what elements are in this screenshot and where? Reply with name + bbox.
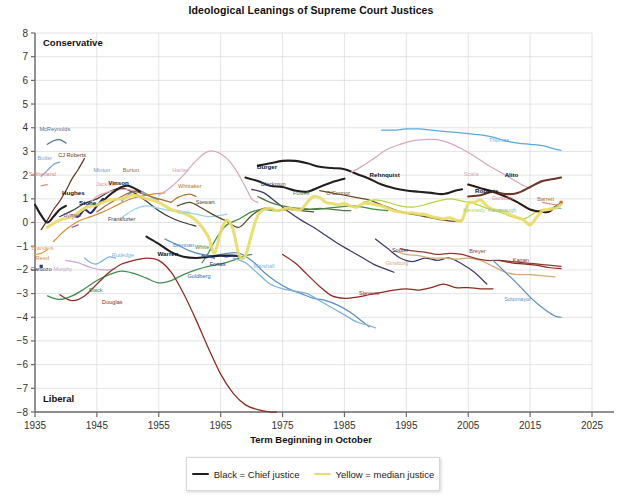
series-label-marshall: Marshall bbox=[253, 263, 274, 269]
zone-label-liberal: Liberal bbox=[43, 393, 74, 404]
chart-canvas: 876543210−1−2−3−4−5−6−7−8 19351945195519… bbox=[0, 0, 622, 504]
series-label-kagan: Kagan bbox=[513, 257, 529, 263]
grid-lines bbox=[35, 33, 592, 412]
svg-text:4: 4 bbox=[22, 122, 28, 133]
series-label-frankfurter: Frankfurter bbox=[108, 216, 135, 222]
series-label-ginsburg: Ginsburg bbox=[386, 260, 409, 266]
svg-text:−3: −3 bbox=[17, 288, 29, 299]
series-label-murphy: Murphy bbox=[54, 266, 73, 272]
svg-text:6: 6 bbox=[22, 75, 28, 86]
series-label-cj-roberts: CJ Roberts bbox=[58, 152, 86, 158]
svg-text:8: 8 bbox=[22, 28, 28, 39]
chart-legend: Black = Chief justice Yellow = median ju… bbox=[186, 457, 440, 491]
series-label-whittaker: Whittaker bbox=[178, 183, 202, 189]
series-label-stevens: Stevens bbox=[359, 290, 379, 296]
series-label-scalia: Scalia bbox=[464, 171, 480, 177]
svg-text:1935: 1935 bbox=[24, 420, 47, 431]
svg-text:2025: 2025 bbox=[581, 420, 604, 431]
chart-root: Ideological Leanings of Supreme Court Ju… bbox=[0, 0, 622, 504]
legend-label-median: Yellow = median justice bbox=[336, 469, 435, 480]
series-label-warren: Warren bbox=[158, 250, 179, 257]
svg-text:−2: −2 bbox=[17, 264, 29, 275]
svg-text:−6: −6 bbox=[17, 359, 29, 370]
series-label-rutledge: Rutledge bbox=[112, 252, 134, 258]
svg-text:7: 7 bbox=[22, 51, 28, 62]
legend-item-chief: Black = Chief justice bbox=[192, 469, 300, 480]
svg-text:−4: −4 bbox=[17, 312, 29, 323]
svg-text:1975: 1975 bbox=[271, 420, 294, 431]
series-label-minton: Minton bbox=[93, 167, 110, 173]
series-label-harlan: Harlan bbox=[172, 167, 188, 173]
svg-text:1995: 1995 bbox=[395, 420, 418, 431]
series-label-gorsuch: Gorsuch bbox=[492, 195, 513, 201]
svg-text:1985: 1985 bbox=[333, 420, 356, 431]
svg-text:2: 2 bbox=[22, 170, 28, 181]
svg-text:2015: 2015 bbox=[519, 420, 542, 431]
series-label-kennedy: Kennedy bbox=[463, 207, 485, 213]
svg-text:0: 0 bbox=[22, 217, 28, 228]
series-label-roberts: Roberts bbox=[475, 187, 499, 194]
series-label-stewart: Stewart bbox=[196, 199, 215, 205]
svg-text:−5: −5 bbox=[17, 335, 29, 346]
series-label-sutherland: Sutherland bbox=[29, 171, 56, 177]
svg-text:−7: −7 bbox=[17, 383, 29, 394]
y-axis-ticks: 876543210−1−2−3−4−5−6−7−8 bbox=[17, 28, 35, 418]
svg-text:1955: 1955 bbox=[148, 420, 171, 431]
series-label-brandeis: Brandeis bbox=[31, 245, 53, 251]
svg-text:1945: 1945 bbox=[86, 420, 109, 431]
series-label-black: Black bbox=[89, 287, 103, 293]
svg-text:2005: 2005 bbox=[457, 420, 480, 431]
series-label-sotomayor: Sotomayor bbox=[504, 296, 531, 302]
series-label-butler: Butler bbox=[38, 155, 53, 161]
series-label-douglas: Douglas bbox=[102, 299, 123, 305]
series-labels: McReynoldsButlerSutherlandCJ RobertsHugh… bbox=[29, 126, 555, 305]
series-label-byrnes: Byrnes bbox=[63, 212, 81, 218]
series-label-breyer: Breyer bbox=[469, 248, 486, 254]
series-label-rehnquist: Rehnquist bbox=[370, 171, 400, 178]
series-label-barrett: Barrett bbox=[537, 196, 554, 202]
series-label-alito: Alito bbox=[505, 171, 519, 178]
x-axis-ticks: 1935194519551965197519851995200520152025 bbox=[24, 412, 604, 431]
series-label-kavanaugh: Kavanaugh bbox=[488, 207, 516, 213]
series-label-burton: Burton bbox=[123, 167, 139, 173]
legend-swatch-median bbox=[314, 473, 331, 476]
svg-text:−1: −1 bbox=[17, 241, 29, 252]
zone-labels: ConservativeLiberal bbox=[43, 37, 103, 404]
svg-text:1965: 1965 bbox=[210, 420, 233, 431]
series-label-powell: Powell bbox=[293, 190, 309, 196]
series-label-cardozo: Cardozo bbox=[31, 266, 52, 272]
svg-text:1: 1 bbox=[22, 193, 28, 204]
svg-text:3: 3 bbox=[22, 146, 28, 157]
legend-swatch-chief bbox=[192, 473, 209, 476]
series-label-brennan: Brennan bbox=[173, 242, 194, 248]
series-label-souter: Souter bbox=[392, 247, 409, 253]
x-axis-title: Term Beginning in October bbox=[0, 434, 622, 445]
series-label-clark: Clark bbox=[177, 209, 190, 215]
legend-label-chief: Black = Chief justice bbox=[214, 469, 300, 480]
series-label-white: White bbox=[195, 244, 209, 250]
series-label-mcreynolds: McReynolds bbox=[39, 126, 70, 132]
series-lines bbox=[35, 129, 563, 412]
series-label-hughes: Hughes bbox=[62, 189, 85, 196]
series-label-stone: Stone bbox=[79, 199, 97, 206]
series-label-blackmun: Blackmun bbox=[261, 181, 286, 187]
svg-text:5: 5 bbox=[22, 99, 28, 110]
series-label-reed: Reed bbox=[36, 255, 49, 261]
series-label-burger: Burger bbox=[257, 163, 278, 170]
zone-label-conservative: Conservative bbox=[43, 37, 103, 48]
legend-item-median: Yellow = median justice bbox=[314, 469, 435, 480]
series-label-vinson: Vinson bbox=[108, 179, 129, 186]
svg-text:−8: −8 bbox=[17, 407, 29, 418]
series-label-fortas: Fortas bbox=[210, 261, 226, 267]
series-label-o-connor: O'Connor bbox=[326, 190, 350, 196]
series-label-thomas: Thomas bbox=[489, 137, 509, 143]
series-label-goldberg: Goldberg bbox=[187, 273, 210, 279]
